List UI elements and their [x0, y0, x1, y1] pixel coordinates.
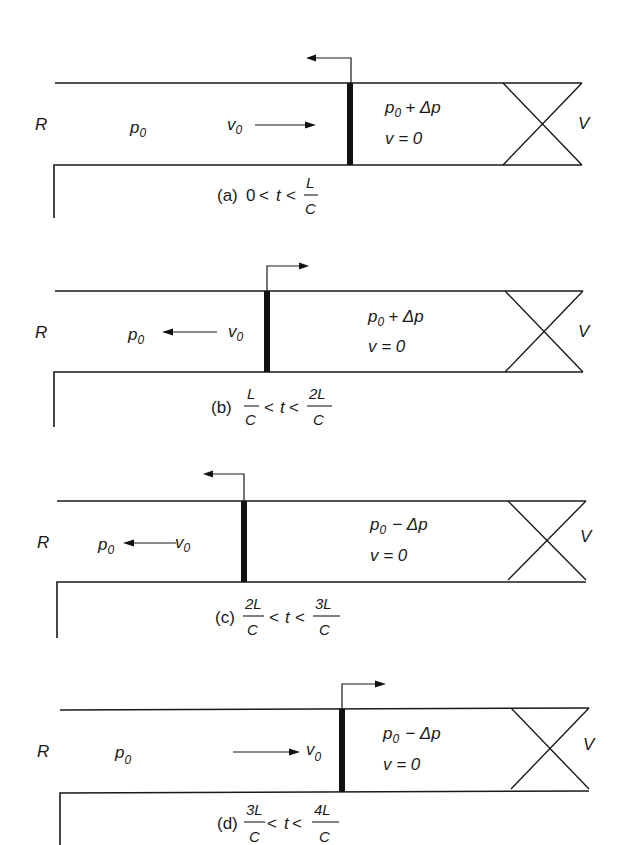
valve-icon — [508, 501, 586, 580]
upstream-velocity: v0 — [306, 740, 322, 764]
svg-text:C: C — [247, 621, 258, 638]
svg-text:C: C — [305, 200, 316, 217]
svg-text:C: C — [319, 828, 330, 845]
svg-text:(c): (c) — [215, 608, 235, 627]
upstream-velocity: v0 — [228, 322, 244, 344]
svg-text:t: t — [285, 608, 291, 627]
valve-label: V — [583, 735, 596, 754]
water-hammer-diagram: R p0 v0 p0+ Δp v = 0 V (a) 0 < t < L C — [0, 0, 624, 845]
svg-text:<: < — [295, 608, 305, 627]
caption-c: (c) 2L C < t < 3L C — [215, 595, 340, 638]
svg-text:<: < — [286, 186, 296, 205]
upstream-pressure: p0 — [114, 743, 131, 767]
svg-text:4L: 4L — [314, 801, 331, 818]
svg-text:C: C — [245, 411, 256, 428]
downstream-pressure: p0+ Δp — [367, 307, 424, 329]
downstream-pressure: p0− Δp — [369, 515, 428, 537]
svg-text:t: t — [284, 814, 290, 833]
svg-text:2L: 2L — [244, 595, 262, 612]
svg-text:t: t — [276, 186, 282, 205]
svg-text:<: < — [264, 398, 274, 417]
svg-text:(d): (d) — [217, 814, 238, 833]
svg-text:C: C — [249, 828, 260, 845]
valve-label: V — [578, 322, 591, 341]
valve-icon — [505, 291, 583, 372]
svg-text:t: t — [280, 398, 286, 417]
upstream-velocity: v0 — [175, 533, 191, 555]
svg-text:L: L — [306, 174, 314, 191]
valve-label: V — [578, 114, 591, 133]
pipe-bottom-wall — [54, 165, 582, 218]
caption-d: (d) 3L C < t < 4L C — [217, 801, 339, 845]
downstream-velocity: v = 0 — [383, 755, 421, 774]
svg-text:C: C — [319, 621, 330, 638]
velocity-arrow-left — [123, 540, 176, 547]
svg-text:(a): (a) — [217, 186, 238, 205]
velocity-arrow-left — [162, 329, 217, 336]
valve-icon — [503, 83, 582, 165]
svg-text:(b): (b) — [211, 398, 232, 417]
upstream-pressure: p0 — [129, 118, 146, 140]
panel-a: R p0 v0 p0+ Δp v = 0 V (a) 0 < t < L C — [35, 55, 591, 219]
svg-text:<: < — [259, 186, 269, 205]
downstream-velocity: v = 0 — [368, 337, 406, 356]
svg-text:<: < — [269, 608, 279, 627]
svg-text:L: L — [247, 385, 255, 402]
valve-icon — [511, 708, 589, 789]
wave-front — [241, 501, 247, 582]
svg-text:<: < — [267, 814, 277, 833]
reservoir-label: R — [35, 323, 47, 342]
svg-text:3L: 3L — [246, 801, 263, 818]
downstream-pressure: p0− Δp — [382, 724, 441, 746]
wave-front — [264, 291, 270, 372]
velocity-arrow-right — [233, 749, 300, 756]
wave-direction-arrow-left — [203, 471, 244, 502]
pipe-top-wall — [60, 708, 589, 710]
svg-text:3L: 3L — [315, 595, 332, 612]
caption-a: (a) 0 < t < L C — [217, 174, 318, 217]
downstream-velocity: v = 0 — [370, 546, 408, 565]
svg-text:<: < — [289, 398, 299, 417]
downstream-pressure: p0+ Δp — [384, 98, 441, 120]
svg-text:2L: 2L — [308, 385, 326, 402]
reservoir-label: R — [37, 742, 49, 761]
upstream-pressure: p0 — [127, 325, 144, 347]
panel-c: R p0 v0 p0− Δp v = 0 V (c) 2L C < t < 3L… — [37, 471, 593, 639]
downstream-velocity: v = 0 — [385, 129, 423, 148]
reservoir-label: R — [35, 115, 47, 134]
reservoir-label: R — [37, 533, 49, 552]
valve-label: V — [580, 527, 593, 546]
upstream-velocity: v0 — [227, 115, 243, 137]
svg-text:0: 0 — [246, 186, 255, 205]
svg-text:<: < — [292, 814, 302, 833]
wave-front — [347, 83, 353, 165]
velocity-arrow-right — [255, 122, 316, 129]
wave-direction-arrow-right — [342, 681, 386, 710]
wave-front — [339, 709, 345, 792]
panel-b: R p0 v0 p0+ Δp v = 0 V (b) L C < t < 2L … — [35, 263, 591, 429]
svg-text:C: C — [313, 411, 324, 428]
caption-b: (b) L C < t < 2L C — [211, 385, 332, 428]
upstream-pressure: p0 — [97, 535, 114, 557]
wave-direction-arrow-left — [306, 55, 351, 84]
panel-d: R p0 v0 p0− Δp v = 0 V (d) 3L C < t < 4L… — [37, 681, 596, 845]
wave-direction-arrow-right — [267, 263, 309, 292]
